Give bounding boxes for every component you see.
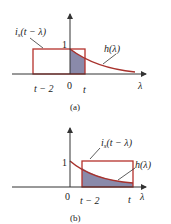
panel-b: is(t − λ) h(λ) 1 0 t − 2 t λ (b) [12,128,152,223]
pointer-response-a [103,54,116,64]
pointer-input-b [90,148,100,159]
overlap-shade-a [70,49,85,74]
tick-one-a: 1 [62,39,67,50]
pointer-input-a [30,38,43,48]
axis-label-b: λ [139,191,145,202]
overlap-shade-b [82,168,133,187]
caption-b: (b) [70,213,81,223]
tick-t-minus-2-b: t − 2 [80,195,100,206]
tick-one-b: 1 [62,157,67,168]
tick-t-b: t [128,194,131,205]
caption-a: (a) [70,102,80,112]
axis-label-a: λ [137,80,143,91]
response-label-a: h(λ) [104,43,121,55]
tick-zero-b: 0 [65,191,70,202]
tick-t-a: t [83,84,86,95]
response-label-b: h(λ) [135,159,152,171]
input-label-b: is(t − λ) [101,137,133,150]
convolution-diagram: is(t − λ) h(λ) 1 t − 2 0 t λ (a) is(t − … [0,0,171,224]
panel-a: is(t − λ) h(λ) 1 t − 2 0 t λ (a) [12,14,146,112]
tick-t-minus-2-a: t − 2 [34,83,54,94]
tick-zero-a: 0 [67,80,72,91]
input-label-a: is(t − λ) [15,26,47,39]
